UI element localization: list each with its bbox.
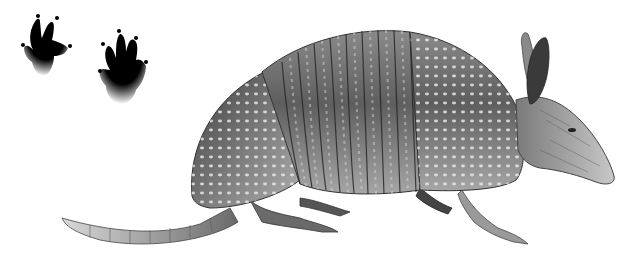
footprint-icon — [98, 29, 148, 104]
armadillo-illustration-scene — [0, 0, 638, 257]
illustration-canvas — [0, 0, 638, 257]
footprint-icon — [21, 14, 72, 76]
